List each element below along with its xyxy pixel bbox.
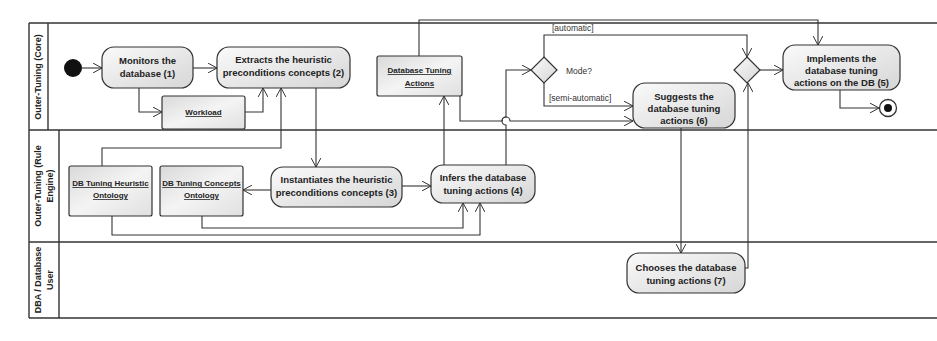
final-node-icon — [880, 100, 897, 117]
svg-text:DB Tuning Concepts: DB Tuning Concepts — [162, 179, 241, 188]
flow-tuning-actions-to-implements — [419, 20, 818, 56]
lane-core: Outer-Tuning (Core) — [33, 34, 43, 119]
lane-label-dba-2: User — [45, 269, 55, 290]
action-instantiates-preconditions: Instantiates the heuristic preconditions… — [271, 167, 402, 207]
lane-dba: DBA / Database User — [33, 247, 55, 314]
lane-label-rule-engine-1: Outer-Tuning (Rule — [33, 145, 43, 226]
svg-text:tuning actions (4): tuning actions (4) — [443, 185, 522, 196]
flows — [82, 20, 879, 268]
svg-text:preconditions concepts (3): preconditions concepts (3) — [276, 187, 397, 198]
object-workload: Workload — [162, 96, 245, 129]
svg-text:actions on the DB (5): actions on the DB (5) — [794, 77, 889, 88]
action-infers-tuning-actions: Infers the database tuning actions (4) — [431, 165, 535, 203]
action-suggests-tuning-actions: Suggests the database tuning actions (6) — [633, 83, 735, 128]
object-database-tuning-actions: Database Tuning Actions — [377, 56, 462, 96]
svg-text:Monitors the: Monitors the — [119, 55, 176, 66]
svg-text:DB Tuning Heuristic: DB Tuning Heuristic — [72, 179, 149, 188]
svg-text:Actions: Actions — [405, 79, 435, 88]
svg-text:Chooses the database: Chooses the database — [636, 262, 737, 273]
svg-text:Suggests the: Suggests the — [654, 91, 714, 102]
svg-text:actions (6): actions (6) — [660, 115, 708, 126]
decision-mode: Mode? — [531, 57, 592, 83]
merge-node — [734, 57, 760, 83]
action-extracts-preconditions: Extracts the heuristic preconditions con… — [217, 47, 350, 88]
flow-monitors-to-workload — [139, 88, 162, 112]
svg-text:Workload: Workload — [185, 108, 221, 117]
svg-text:preconditions concepts (2): preconditions concepts (2) — [223, 67, 344, 78]
svg-text:database tuning: database tuning — [648, 103, 721, 114]
svg-text:Extracts the heuristic: Extracts the heuristic — [235, 54, 332, 65]
lane-label-dba-1: DBA / Database — [33, 247, 43, 314]
action-chooses-tuning-actions: Chooses the database tuning actions (7) — [627, 253, 745, 293]
flow-workload-to-extracts — [245, 88, 263, 112]
lane-rule-engine: Outer-Tuning (Rule Engine) — [33, 145, 55, 226]
activity-diagram: Outer-Tuning (Core) Outer-Tuning (Rule E… — [0, 0, 937, 341]
flow-mode-automatic — [544, 35, 747, 57]
lane-label-core: Outer-Tuning (Core) — [33, 34, 43, 119]
svg-text:database tuning: database tuning — [805, 65, 878, 76]
svg-text:Database Tuning: Database Tuning — [388, 66, 452, 75]
object-concepts-ontology: DB Tuning Concepts Ontology — [160, 166, 243, 216]
guard-semi-automatic: [semi-automatic] — [549, 93, 611, 103]
decision-mode-label: Mode? — [566, 66, 592, 76]
action-monitors-database: Monitors the database (1) — [102, 47, 193, 88]
object-heuristic-ontology: DB Tuning Heuristic Ontology — [69, 166, 152, 216]
flow-implements-to-final — [840, 90, 879, 108]
svg-text:Ontology: Ontology — [93, 191, 129, 200]
flow-chooses-to-merge — [745, 83, 748, 268]
initial-node-icon — [64, 59, 82, 77]
lane-label-rule-engine-2: Engine) — [45, 169, 55, 202]
action-implements-tuning-actions: Implements the database tuning actions o… — [783, 45, 900, 90]
svg-text:Ontology: Ontology — [184, 191, 220, 200]
svg-text:Instantiates the heuristic: Instantiates the heuristic — [281, 174, 393, 185]
guard-automatic: [automatic] — [552, 23, 594, 33]
svg-text:database (1): database (1) — [120, 68, 175, 79]
svg-text:Infers the database: Infers the database — [440, 172, 527, 183]
svg-text:Implements the: Implements the — [807, 53, 877, 64]
svg-text:tuning actions (7): tuning actions (7) — [646, 275, 725, 286]
